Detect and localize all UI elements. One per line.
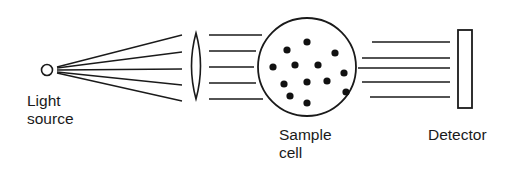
diverging-ray-group xyxy=(57,35,182,101)
particle-dot xyxy=(342,88,349,95)
sample-cell-label-line1: Sample xyxy=(279,126,332,143)
light-source-circle-icon xyxy=(42,65,53,76)
particle-dot xyxy=(291,61,298,68)
diverging-ray xyxy=(57,35,182,67)
diverging-ray xyxy=(57,72,182,85)
diverging-ray xyxy=(57,73,182,101)
particle-dot xyxy=(323,77,330,84)
diagram-canvas: Light source Sample cell Detector xyxy=(0,0,529,175)
particle-dot xyxy=(286,92,293,99)
light-source-label-line2: source xyxy=(27,110,74,127)
biconvex-lens-icon xyxy=(192,33,201,99)
sample-cell-label-line2: cell xyxy=(279,144,302,161)
particle-dot xyxy=(269,63,276,70)
parallel-ray-group-left xyxy=(209,35,263,99)
particle-group xyxy=(269,38,349,106)
particle-dot xyxy=(303,38,310,45)
particle-dot xyxy=(331,49,338,56)
detector-label: Detector xyxy=(428,126,487,143)
particle-dot xyxy=(303,78,310,85)
particle-dot xyxy=(280,80,287,87)
optical-schematic-diagram: Light source Sample cell Detector xyxy=(0,0,529,175)
diverging-ray xyxy=(57,69,182,70)
particle-dot xyxy=(314,61,321,68)
particle-dot xyxy=(283,46,290,53)
particle-dot xyxy=(340,69,347,76)
detector-plate-icon xyxy=(458,30,472,108)
diverging-ray xyxy=(57,52,182,68)
particle-dot xyxy=(303,99,310,106)
parallel-ray-group-right xyxy=(358,42,450,97)
light-source-label-line1: Light xyxy=(27,92,61,109)
